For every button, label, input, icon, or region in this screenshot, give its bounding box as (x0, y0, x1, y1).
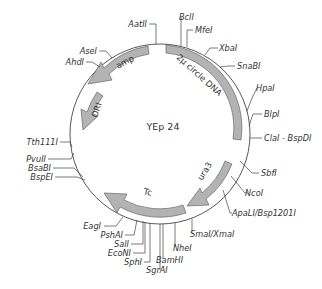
snaBI-lead (220, 66, 235, 67)
site-bclI: BclI (179, 12, 194, 22)
site-tth111I: Tth111I (27, 137, 59, 147)
site-mfeI: MfeI (195, 25, 213, 35)
site-blpI: BlpI (264, 109, 280, 119)
feature-tc-arrow (104, 193, 186, 217)
plasmid-name: YEp 24 (146, 121, 180, 132)
site-aseI: AseI (79, 46, 98, 56)
bsaBI-lead (53, 168, 83, 177)
site-sbfI: SbfI (261, 168, 277, 178)
aseI-lead (99, 51, 112, 58)
site-xbaI: XbaI (218, 43, 238, 53)
site-sphI: SphI (124, 257, 143, 267)
site-hpaI: HpaI (256, 83, 275, 93)
xbaI-lead (205, 48, 218, 55)
site-eagI: EagI (83, 221, 101, 231)
site-nheI: NheI (173, 243, 192, 253)
plasmid-map-svg: amp ORI 2µ circle DNA ura3 Tc YEp 24 Aat… (0, 0, 322, 289)
site-smaI-xmaI: SmaI/XmaI (190, 229, 235, 239)
site-apaLI-bsp1201I: ApaLI/Bsp1201I (231, 208, 296, 218)
pvuII-lead (48, 153, 74, 159)
pshAI-lead (125, 220, 137, 235)
site-sgrAI: SgrAI (146, 265, 168, 275)
site-snaBI: SnaBI (237, 61, 261, 71)
ahdI-lead (86, 62, 100, 67)
plasmid-map: amp ORI 2µ circle DNA ura3 Tc YEp 24 Aat… (0, 0, 322, 289)
aatII-lead (149, 24, 156, 44)
site-ncoI: NcoI (245, 188, 264, 198)
site-bspEI: BspEI (30, 172, 53, 182)
bspEI-lead (55, 177, 85, 180)
site-claI-bspDI: ClaI - BspDI (264, 133, 312, 143)
blpI-lead (249, 114, 262, 126)
sbfI-lead (240, 161, 259, 173)
site-ahdI: AhdI (65, 57, 85, 67)
feature-tc-label: Tc (142, 186, 154, 198)
feature-ura3-label: ura3 (195, 160, 214, 182)
eagI-lead (104, 217, 123, 226)
site-aatII: AatII (127, 19, 147, 29)
mfeI-lead (187, 30, 193, 47)
salI-lead (131, 221, 143, 244)
